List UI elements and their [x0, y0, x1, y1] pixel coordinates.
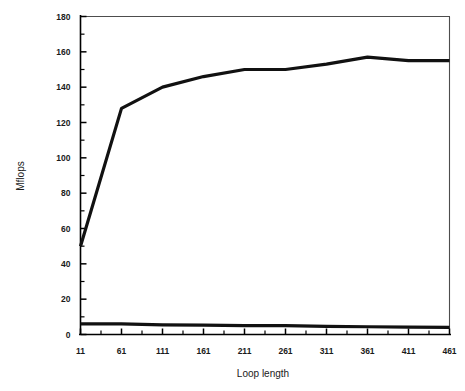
- y-tick-label-120: 120: [56, 118, 70, 128]
- y-tick-label-180: 180: [56, 12, 70, 22]
- x-axis: 1161111161211261311361411461 Loop length: [76, 329, 457, 380]
- x-tick-label-161: 161: [196, 346, 210, 356]
- y-tick-label-160: 160: [56, 47, 70, 57]
- y-tick-label-60: 60: [61, 224, 71, 234]
- x-axis-tick-labels: 1161111161211261311361411461: [76, 346, 457, 356]
- x-tick-label-11: 11: [76, 346, 85, 356]
- x-tick-label-411: 411: [402, 346, 416, 356]
- line-chart: 020406080100120140160180 Mflops 11611111…: [0, 0, 465, 391]
- plot-frame: [80, 17, 450, 334]
- y-axis-tick-labels: 020406080100120140160180: [56, 12, 70, 340]
- y-tick-label-20: 20: [61, 294, 71, 304]
- y-tick-label-40: 40: [61, 259, 71, 269]
- x-axis-title: Loop length: [237, 368, 289, 379]
- x-tick-label-461: 461: [442, 346, 456, 356]
- y-axis: 020406080100120140160180 Mflops: [15, 12, 87, 340]
- x-tick-label-211: 211: [238, 346, 252, 356]
- x-tick-label-61: 61: [117, 346, 127, 356]
- y-axis-title: Mflops: [15, 161, 26, 190]
- y-tick-label-140: 140: [56, 82, 70, 92]
- y-tick-label-100: 100: [56, 153, 70, 163]
- y-tick-label-0: 0: [66, 330, 71, 340]
- x-tick-label-261: 261: [278, 346, 292, 356]
- y-tick-label-80: 80: [61, 188, 71, 198]
- x-tick-label-111: 111: [156, 346, 170, 356]
- x-tick-label-361: 361: [360, 346, 374, 356]
- series-upper-series: [81, 57, 450, 246]
- x-tick-label-311: 311: [320, 346, 334, 356]
- series-lower-series: [81, 324, 450, 328]
- data-series-group: [81, 57, 450, 327]
- chart-container: 020406080100120140160180 Mflops 11611111…: [0, 0, 465, 391]
